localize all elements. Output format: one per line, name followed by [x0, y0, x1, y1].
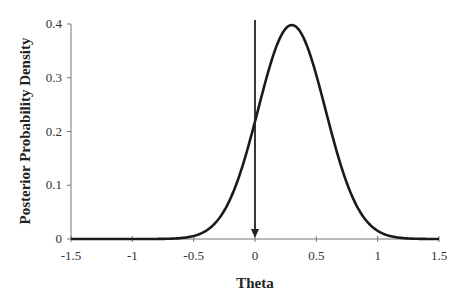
y-tick-label: 0 [56, 231, 63, 246]
y-tick-label: 0.1 [46, 177, 62, 192]
x-tick-label: -0.5 [183, 248, 204, 263]
y-tick-label: 0.2 [46, 124, 62, 139]
x-tick-label: 1.5 [431, 248, 447, 263]
x-tick-label: -1 [127, 248, 138, 263]
y-tick-label: 0.4 [46, 16, 63, 31]
posterior-density-chart: 00.10.20.30.4-1.5-1-0.500.511.5 Theta Po… [0, 0, 466, 300]
x-tick-label: -1.5 [61, 248, 82, 263]
x-tick-label: 0 [252, 248, 259, 263]
y-axis-title: Posterior Probability Density [17, 37, 33, 224]
y-tick-label: 0.3 [46, 70, 62, 85]
axes: 00.10.20.30.4-1.5-1-0.500.511.5 [46, 16, 447, 263]
x-tick-label: 1 [374, 248, 381, 263]
x-axis-title: Theta [236, 275, 274, 291]
x-tick-label: 0.5 [308, 248, 324, 263]
